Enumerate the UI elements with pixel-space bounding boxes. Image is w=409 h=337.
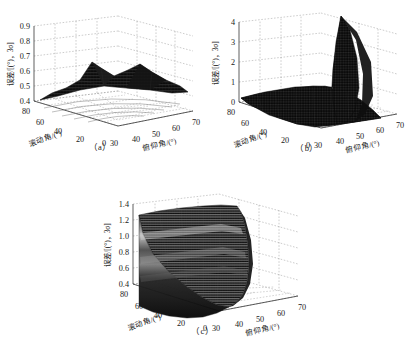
svg-text:80: 80 [22,107,30,116]
grid-back-right [118,16,193,111]
subplot-c-axes: 1.4 1.2 1.0 0.8 0.6 0.4 80 60 40 20 0 30… [95,178,310,337]
svg-text:0.4: 0.4 [20,97,30,106]
subplot-a: 0.9 0.8 0.7 0.6 0.5 0.4 80 60 40 20 0 30… [0,0,200,150]
svg-text:60: 60 [36,118,44,127]
svg-text:3: 3 [231,38,235,47]
subplot-b: 4 3 2 1 0 80 60 40 20 0 30 40 50 60 70 误… [205,0,409,150]
subplot-b-caption: （b） [205,141,409,153]
subplot-c-ztick-labels: 1.4 1.2 1.0 0.8 0.6 0.4 [119,200,129,289]
subplot-b-axes: 4 3 2 1 0 80 60 40 20 0 30 40 50 60 70 误… [205,0,409,150]
svg-text:0.8: 0.8 [20,37,30,46]
svg-text:0.4: 0.4 [119,280,129,289]
surface-mesh-a [40,62,188,100]
svg-text:0.9: 0.9 [20,22,30,31]
svg-text:2: 2 [231,58,235,67]
subplot-a-axes: 0.9 0.8 0.7 0.6 0.5 0.4 80 60 40 20 0 30… [0,0,200,150]
figure-3d-surface-panels: 0.9 0.8 0.7 0.6 0.5 0.4 80 60 40 20 0 30… [0,0,409,337]
svg-text:60: 60 [135,302,143,311]
svg-text:80: 80 [227,108,235,117]
svg-text:0.8: 0.8 [119,248,129,257]
surface-mesh-c [139,205,253,318]
svg-text:70: 70 [192,118,200,127]
svg-text:1: 1 [231,78,235,87]
svg-text:50: 50 [356,132,364,141]
subplot-a-ztick-labels: 0.9 0.8 0.7 0.6 0.5 0.4 [20,22,30,106]
svg-text:0.7: 0.7 [20,52,30,61]
svg-text:1.0: 1.0 [119,232,129,241]
svg-text:1.2: 1.2 [119,216,129,225]
svg-text:70: 70 [298,303,306,312]
svg-text:60: 60 [241,119,249,128]
svg-text:50: 50 [152,130,160,139]
subplot-c: 1.4 1.2 1.0 0.8 0.6 0.4 80 60 40 20 0 30… [95,178,310,337]
subplot-a-caption: （a） [0,140,200,152]
svg-text:0.6: 0.6 [119,264,129,273]
svg-text:4: 4 [231,18,235,27]
subplot-c-zaxis-label: 误差/[(°)，3σ] [103,223,112,267]
svg-text:1.4: 1.4 [119,200,129,209]
svg-text:0.5: 0.5 [20,82,30,91]
svg-text:60: 60 [376,126,384,135]
subplot-a-zaxis-label: 误差/[(°)，3σ] [6,42,15,86]
svg-text:0: 0 [231,98,235,107]
svg-text:50: 50 [256,315,264,324]
subplot-c-caption: （c） [95,324,310,336]
svg-text:60: 60 [277,309,285,318]
svg-text:70: 70 [396,121,404,130]
subplot-b-zaxis-label: 误差/[(°)，3σ] [211,41,220,85]
svg-text:80: 80 [120,290,128,299]
subplot-b-ztick-labels: 4 3 2 1 0 [231,18,235,107]
svg-text:60: 60 [172,124,180,133]
surface-mesh-b [241,16,381,127]
svg-text:0.6: 0.6 [20,67,30,76]
